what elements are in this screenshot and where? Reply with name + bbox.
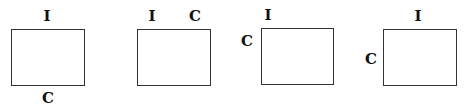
rectangle xyxy=(261,28,334,85)
rectangle xyxy=(383,29,457,86)
label-c: C xyxy=(241,34,253,49)
label-c: C xyxy=(365,52,377,67)
label-i: I xyxy=(43,9,50,24)
label-c: C xyxy=(189,9,201,24)
label-i: I xyxy=(264,8,271,23)
rectangle xyxy=(137,29,211,86)
rectangle xyxy=(11,29,85,86)
label-c: C xyxy=(42,91,54,106)
label-i: I xyxy=(414,9,421,24)
label-i: I xyxy=(148,9,155,24)
